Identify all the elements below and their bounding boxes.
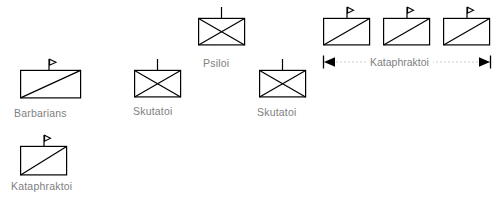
unit-label-skutatoi-left: Skutatoi — [133, 105, 173, 117]
diagram-canvas: Barbarians Kataphraktoi Skutatoi — [0, 0, 501, 204]
unit-symbol-kataphraktoi-3[interactable] — [443, 6, 495, 48]
unit-symbol-barbarians[interactable] — [20, 58, 84, 102]
unit-symbol-skutatoi-right[interactable] — [259, 58, 311, 100]
unit-label-skutatoi-right: Skutatoi — [257, 106, 297, 118]
unit-symbol-kataphraktoi-1[interactable] — [323, 6, 375, 48]
flag-staff-icon — [407, 7, 414, 18]
flag-staff-icon — [49, 59, 56, 70]
arrow-right-icon — [479, 57, 490, 67]
flag-staff-icon — [467, 7, 474, 18]
unit-symbol-kataphraktoi-2[interactable] — [383, 6, 435, 48]
unit-label-psiloi: Psiloi — [203, 57, 229, 69]
flag-staff-icon — [347, 7, 354, 18]
unit-symbol-psiloi[interactable] — [198, 6, 250, 48]
kataphraktoi-span-label: Kataphraktoi — [366, 56, 433, 68]
unit-label-barbarians: Barbarians — [14, 107, 67, 119]
unit-label-kataphraktoi-left: Kataphraktoi — [11, 180, 72, 192]
unit-symbol-skutatoi-left[interactable] — [134, 58, 186, 100]
flag-staff-icon — [44, 135, 51, 146]
unit-symbol-kataphraktoi-left[interactable] — [20, 134, 72, 178]
arrow-left-icon — [324, 57, 335, 67]
